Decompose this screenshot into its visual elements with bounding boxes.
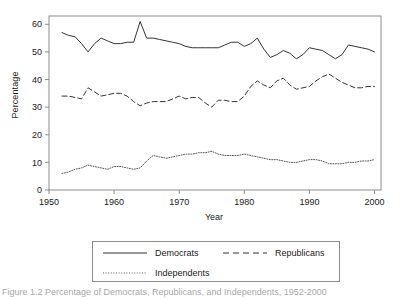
y-tick-label: 10	[32, 158, 42, 168]
y-tick-label: 50	[32, 47, 42, 57]
legend-label-democrats: Democrats	[155, 248, 199, 258]
x-tick-label: 1980	[234, 197, 254, 207]
line-chart: 0102030405060195019601970198019902000	[0, 0, 404, 232]
y-tick-label: 60	[32, 19, 42, 29]
legend-dotted-line-icon	[103, 268, 147, 278]
y-tick-label: 0	[37, 185, 42, 195]
series-line-republicans	[62, 74, 374, 107]
y-axis-title: Percentage	[10, 59, 20, 131]
legend-row: Democrats Republicans	[93, 243, 339, 263]
legend-solid-line-icon	[103, 248, 147, 258]
x-axis-title: Year	[49, 212, 379, 222]
plot-area: 0102030405060195019601970198019902000 Pe…	[0, 0, 404, 232]
x-tick-label: 2000	[364, 197, 384, 207]
legend-row: Independents	[93, 263, 339, 283]
y-tick-label: 40	[32, 75, 42, 85]
figure-container: 0102030405060195019601970198019902000 Pe…	[0, 0, 404, 299]
chart-legend: Democrats Republicans Independents	[92, 241, 340, 282]
figure-caption-text: Figure 1.2 Percentage of Democrats, Repu…	[2, 288, 327, 297]
y-tick-label: 20	[32, 130, 42, 140]
x-tick-label: 1990	[299, 197, 319, 207]
y-tick-label: 30	[32, 102, 42, 112]
legend-label-independents: Independents	[155, 268, 210, 278]
x-tick-label: 1960	[104, 197, 124, 207]
legend-item-independents: Independents	[103, 263, 210, 283]
figure-caption-clipped: Figure 1.2 Percentage of Democrats, Repu…	[0, 288, 404, 299]
series-line-democrats	[62, 22, 374, 59]
legend-dashed-line-icon	[223, 248, 267, 258]
legend-item-republicans: Republicans	[223, 243, 325, 263]
series-line-independents	[62, 151, 374, 173]
legend-item-democrats: Democrats	[103, 243, 199, 263]
x-tick-label: 1970	[169, 197, 189, 207]
legend-label-republicans: Republicans	[275, 248, 325, 258]
x-tick-label: 1950	[39, 197, 59, 207]
